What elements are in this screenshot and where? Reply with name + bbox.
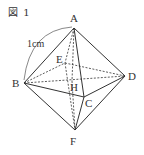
- edge-length-label: 1cm: [27, 38, 44, 49]
- vertex-label-B: B: [12, 77, 19, 89]
- vertex-label-A: A: [70, 12, 78, 24]
- octahedron-diagram: 1cm A B C D E F H: [0, 0, 144, 155]
- vertex-label-D: D: [128, 70, 136, 82]
- vertex-label-C: C: [85, 97, 92, 109]
- edge-B-F: [24, 83, 75, 130]
- figure-title: 図 1: [8, 4, 31, 19]
- edge-length-arc: [24, 27, 72, 80]
- edge-B-E: [24, 63, 65, 83]
- octahedron-figure: 図 1 1cm A B C D E: [0, 0, 144, 155]
- edge-C-D: [84, 76, 125, 97]
- vertex-label-F: F: [70, 135, 76, 147]
- edge-A-D: [74, 28, 125, 76]
- point-label-H: H: [70, 81, 78, 93]
- vertex-label-E: E: [56, 53, 63, 65]
- edge-E-F: [65, 63, 75, 130]
- edge-E-D: [65, 63, 125, 76]
